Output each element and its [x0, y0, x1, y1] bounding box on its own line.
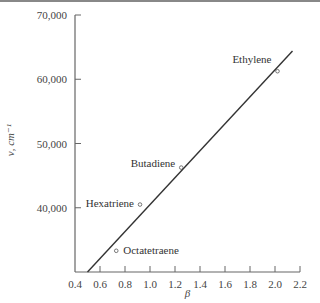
y-tick-label: 70,000: [37, 9, 68, 21]
data-point-marker: [114, 249, 118, 253]
data-point-label: Octatetraene: [123, 244, 179, 256]
x-tick-label: 1.0: [143, 278, 157, 290]
y-tick-label: 40,000: [37, 202, 68, 214]
x-tick-label: 2.0: [268, 278, 282, 290]
x-axis-label: β: [184, 287, 191, 299]
y-tick-label: 50,000: [37, 138, 68, 150]
data-point-marker: [179, 166, 183, 170]
x-tick-label: 1.6: [218, 278, 232, 290]
data-point-marker: [138, 203, 142, 207]
data-point-label: Butadiene: [131, 157, 176, 169]
x-tick-label: 0.4: [68, 278, 82, 290]
data-point-marker: [276, 69, 280, 73]
x-tick-label: 2.2: [293, 278, 307, 290]
x-tick-label: 0.8: [118, 278, 132, 290]
data-point-label: Ethylene: [232, 53, 271, 65]
data-point-label: Hexatriene: [86, 197, 134, 209]
fit-line: [88, 51, 293, 272]
x-tick-label: 0.6: [93, 278, 107, 290]
y-axis-label: ν, cm⁻¹: [4, 124, 16, 156]
x-tick-label: 1.2: [168, 278, 182, 290]
chart-canvas: 40,00050,00060,00070,0000.40.60.81.01.21…: [0, 0, 320, 303]
y-tick-label: 60,000: [37, 73, 68, 85]
x-tick-label: 1.4: [193, 278, 207, 290]
x-tick-label: 1.8: [243, 278, 257, 290]
